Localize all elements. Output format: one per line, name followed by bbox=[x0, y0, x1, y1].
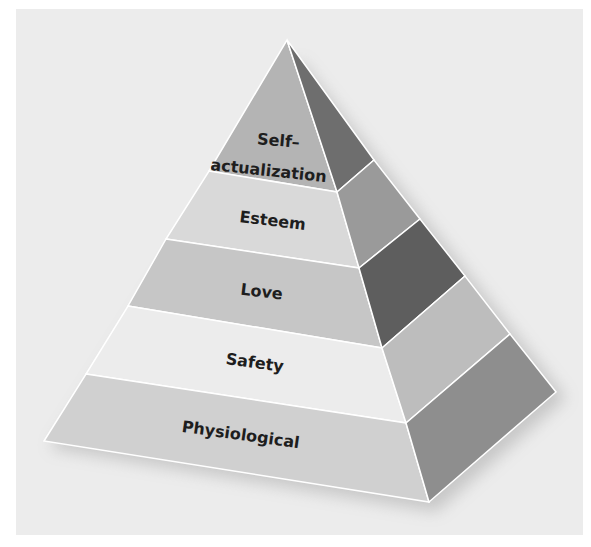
pyramid-diagram: Self– actualization Esteem Love Safety P… bbox=[0, 0, 591, 547]
label-self-actualization-line1: Self– bbox=[256, 129, 300, 152]
